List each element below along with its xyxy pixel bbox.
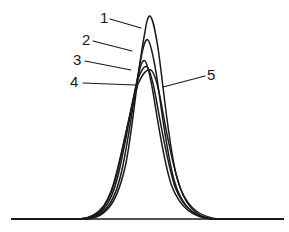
peak-label-1: 1 (100, 10, 108, 25)
leader-4 (83, 83, 135, 85)
plot-canvas (0, 0, 289, 232)
peak-label-2: 2 (82, 32, 90, 47)
peak-curve-4 (12, 67, 283, 219)
leader-lines-group (83, 19, 205, 87)
peak-label-4: 4 (70, 74, 78, 89)
leader-5 (163, 76, 205, 87)
peak-label-3: 3 (73, 52, 81, 67)
peak-curve-5 (12, 70, 283, 219)
peak-label-5: 5 (207, 67, 215, 82)
leader-2 (93, 41, 132, 51)
peak-curves-figure: 12345 (0, 0, 289, 232)
leader-1 (110, 19, 141, 28)
leader-3 (85, 61, 131, 70)
curves-group (12, 16, 283, 219)
peak-curve-3 (12, 61, 283, 219)
peak-curve-1 (12, 16, 283, 219)
